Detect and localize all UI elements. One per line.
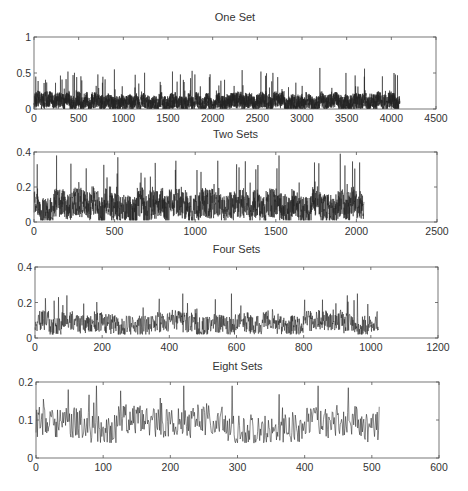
x-tick-label: 1000 — [184, 225, 208, 237]
subplot-eight-sets: Eight Sets 010020030040050060000.10.2 — [18, 360, 448, 473]
y-tick-label: 0.4 — [17, 261, 32, 273]
x-tick-label: 4000 — [380, 112, 404, 124]
x-tick-label: 0 — [31, 225, 37, 237]
y-tick-label: 0.2 — [16, 181, 31, 193]
figure: One Set 05001000150020002500300035004000… — [0, 0, 468, 491]
x-tick-label: 3500 — [335, 112, 359, 124]
data-trace — [35, 294, 379, 335]
y-tick-label: 0.1 — [18, 414, 33, 426]
x-tick-label: 3000 — [290, 112, 314, 124]
y-tick-label: 0.5 — [16, 67, 31, 79]
x-tick-label: 300 — [229, 461, 247, 473]
data-trace — [36, 386, 379, 443]
x-tick-label: 4500 — [424, 112, 448, 124]
subplot-title: One Set — [215, 11, 255, 23]
x-tick-label: 500 — [70, 112, 88, 124]
x-tick-label: 0 — [31, 112, 37, 124]
x-tick-label: 100 — [94, 461, 112, 473]
x-tick-label: 2000 — [345, 225, 369, 237]
x-tick-label: 1200 — [426, 341, 450, 353]
subplot-one-set: One Set 05001000150020002500300035004000… — [16, 11, 447, 124]
x-tick-label: 1000 — [112, 112, 136, 124]
data-trace — [34, 68, 400, 109]
x-tick-label: 2500 — [246, 112, 270, 124]
x-tick-label: 1000 — [359, 341, 383, 353]
x-tick-label: 1500 — [264, 225, 288, 237]
x-tick-label: 1500 — [156, 112, 180, 124]
x-tick-label: 400 — [296, 461, 314, 473]
subplot-title: Four Sets — [213, 243, 261, 255]
x-tick-label: 200 — [93, 341, 111, 353]
x-tick-label: 400 — [161, 341, 179, 353]
y-tick-label: 0 — [27, 452, 33, 464]
x-tick-label: 500 — [106, 225, 124, 237]
x-tick-label: 600 — [430, 461, 448, 473]
y-tick-label: 1 — [25, 31, 31, 43]
data-trace — [34, 154, 364, 221]
x-tick-label: 2500 — [425, 225, 449, 237]
y-tick-label: 0 — [26, 332, 32, 344]
x-tick-label: 800 — [295, 341, 313, 353]
x-tick-label: 2000 — [201, 112, 225, 124]
subplot-two-sets: Two Sets 0500100015002000250000.20.4 — [16, 128, 448, 237]
y-tick-label: 0.4 — [16, 146, 31, 158]
x-tick-label: 0 — [32, 341, 38, 353]
x-tick-label: 500 — [363, 461, 381, 473]
subplot-title: Two Sets — [213, 128, 259, 140]
y-tick-label: 0.2 — [17, 297, 32, 309]
x-tick-label: 200 — [162, 461, 180, 473]
subplot-title: Eight Sets — [212, 360, 263, 372]
y-tick-label: 0 — [25, 103, 31, 115]
x-tick-label: 600 — [228, 341, 246, 353]
subplot-four-sets: Four Sets 02004006008001000120000.20.4 — [17, 243, 449, 353]
x-tick-label: 0 — [33, 461, 39, 473]
y-tick-label: 0 — [25, 216, 31, 228]
y-tick-label: 0.2 — [18, 376, 33, 388]
